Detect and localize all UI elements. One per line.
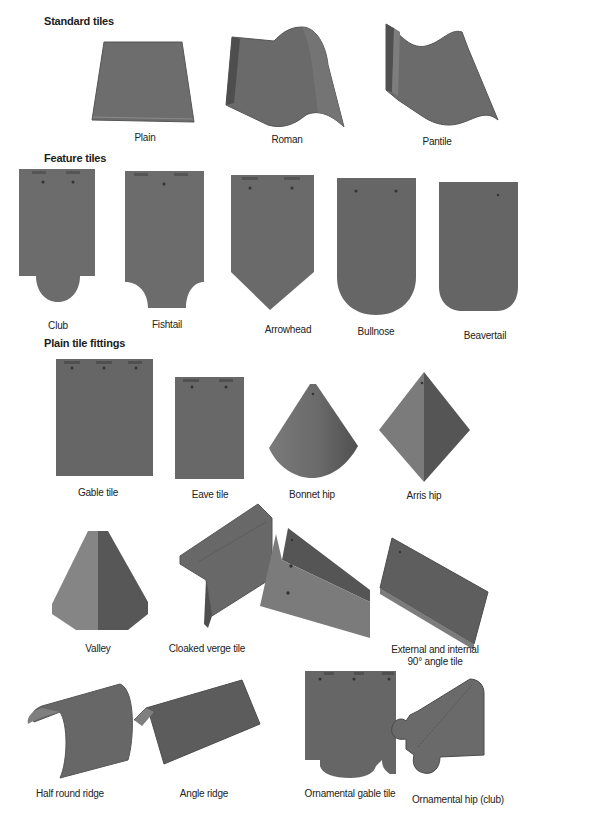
- bonnet-hip-illustration: [268, 382, 360, 482]
- label-plain: Plain: [134, 132, 155, 143]
- label-angle-ridge: Angle ridge: [180, 788, 228, 799]
- ornamental-hip-club-illustration: [388, 677, 488, 777]
- label-ornamental-gable-tile: Ornamental gable tile: [305, 788, 396, 799]
- label-pantile: Pantile: [422, 136, 451, 147]
- plain-tile-illustration: [90, 40, 200, 140]
- pantile-illustration: [378, 20, 508, 135]
- label-ornamental-hip-club: Ornamental hip (club): [412, 794, 504, 805]
- section-heading-plain-tile-fittings: Plain tile fittings: [44, 337, 125, 349]
- label-beavertail: Beavertail: [464, 330, 506, 341]
- label-half-round-ridge: Half round ridge: [36, 788, 104, 799]
- label-fishtail: Fishtail: [152, 319, 182, 330]
- roman-tile-illustration: [222, 25, 352, 135]
- label-bullnose: Bullnose: [358, 326, 395, 337]
- label-line-1: External and internal: [380, 644, 490, 656]
- label-eave-tile: Eave tile: [192, 489, 229, 500]
- club-tile-illustration: [18, 168, 100, 308]
- section-heading-standard-tiles: Standard tiles: [44, 15, 114, 27]
- angle-ridge-illustration: [132, 678, 262, 768]
- section-heading-feature-tiles: Feature tiles: [44, 152, 106, 164]
- valley-tile-illustration: [50, 530, 150, 632]
- label-club: Club: [48, 320, 68, 331]
- gable-tile-illustration: [56, 359, 154, 479]
- label-gable-tile: Gable tile: [78, 487, 118, 498]
- arrowhead-tile-illustration: [230, 174, 316, 314]
- fishtail-tile-illustration: [124, 170, 206, 310]
- half-round-ridge-illustration: [24, 680, 134, 780]
- label-bonnet-hip: Bonnet hip: [289, 489, 335, 500]
- label-external-internal-angle-tile: External and internal 90° angle tile: [380, 644, 490, 668]
- label-arrowhead: Arrowhead: [265, 324, 312, 335]
- label-arris-hip: Arris hip: [407, 490, 442, 501]
- eave-tile-illustration: [175, 377, 245, 481]
- ornamental-gable-tile-illustration: [304, 670, 398, 778]
- arris-hip-illustration: [378, 370, 472, 484]
- beavertail-tile-illustration: [438, 181, 520, 316]
- internal-angle-tile-illustration: [378, 534, 490, 650]
- label-roman: Roman: [271, 134, 302, 145]
- label-valley: Valley: [85, 643, 110, 654]
- external-angle-tile-illustration: [258, 526, 376, 646]
- label-line-2: 90° angle tile: [380, 656, 490, 668]
- bullnose-tile-illustration: [336, 177, 418, 317]
- label-cloaked-verge-tile: Cloaked verge tile: [169, 643, 245, 654]
